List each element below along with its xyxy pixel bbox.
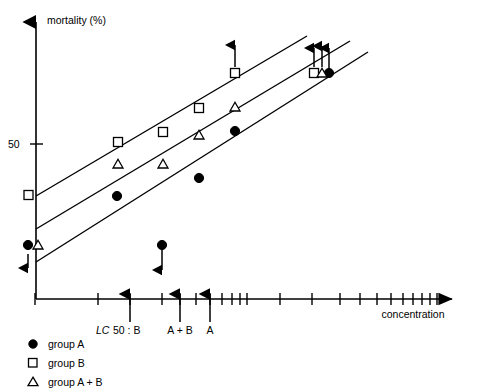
data-point-group-b bbox=[24, 191, 33, 200]
data-point-group-a bbox=[112, 191, 121, 200]
data-point-group-b bbox=[159, 128, 168, 137]
data-point-group-b bbox=[231, 69, 240, 78]
data-point-group-a bbox=[23, 240, 32, 249]
legend-label-group-b: group B bbox=[48, 357, 85, 369]
chart-figure: 50 mortality (%) bbox=[0, 0, 492, 388]
data-point-group-a-plus-b bbox=[194, 130, 204, 139]
data-point-group-a bbox=[157, 240, 166, 249]
mortality-concentration-scatter-plot: 50 mortality (%) bbox=[0, 0, 492, 388]
data-point-group-a-plus-b bbox=[158, 159, 168, 168]
a-label: A bbox=[206, 324, 213, 336]
y-axis-title: mortality (%) bbox=[47, 14, 106, 26]
legend-marker-filled-circle bbox=[29, 340, 37, 348]
data-point-group-b bbox=[114, 138, 123, 147]
fit-line-group-a-plus-b bbox=[36, 41, 350, 229]
data-point-group-b bbox=[195, 104, 204, 113]
axes-group bbox=[36, 22, 452, 299]
lc50-b-label-rest: 50 : B bbox=[113, 324, 140, 336]
fit-line-group-a bbox=[36, 52, 368, 262]
y-axis-ticks: 50 bbox=[8, 138, 43, 150]
series-group-a bbox=[23, 48, 333, 270]
legend: group A group B group A + B bbox=[28, 338, 103, 388]
legend-label-group-a: group A bbox=[48, 338, 84, 350]
x-axis-annotation-labels: LC 50 : B A + B A bbox=[96, 324, 214, 336]
legend-marker-open-square bbox=[29, 359, 38, 368]
legend-marker-open-triangle bbox=[28, 377, 38, 385]
data-point-group-a bbox=[230, 126, 239, 135]
y-tick-label-50: 50 bbox=[8, 138, 20, 150]
series-group-a-plus-b bbox=[33, 46, 327, 249]
a-plus-b-label: A + B bbox=[167, 324, 192, 336]
legend-label-group-a-plus-b: group A + B bbox=[48, 376, 103, 388]
data-point-group-a bbox=[194, 173, 203, 182]
data-point-group-a-plus-b bbox=[33, 240, 43, 249]
x-axis-title: concentration bbox=[381, 308, 444, 320]
data-point-group-a-plus-b bbox=[113, 159, 123, 168]
lc50-b-label-italic-prefix: LC bbox=[96, 324, 110, 336]
data-point-group-a-plus-b bbox=[230, 102, 240, 111]
